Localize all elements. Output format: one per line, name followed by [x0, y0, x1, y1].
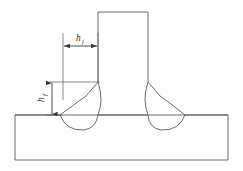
weld-left-top-edge	[60, 96, 86, 115]
weld-left-root-face	[98, 82, 101, 115]
base-plate-outline	[15, 115, 228, 160]
label-vertical-hf-subscript: f	[41, 93, 48, 96]
dimension-horizontal	[63, 33, 98, 100]
weld-cross-section-svg: h f h f	[0, 0, 243, 171]
weld-right-root-face	[145, 82, 148, 115]
weld-diagram: h f h f	[0, 0, 243, 171]
weld-right-upper-face	[148, 82, 160, 96]
label-vertical-hf-symbol: h	[36, 97, 46, 102]
weld-left-upper-face	[86, 82, 98, 96]
label-horizontal-hf-subscript: f	[82, 38, 85, 45]
weld-right-bead-profile	[148, 115, 185, 130]
label-horizontal-hf-symbol: h	[76, 33, 81, 43]
label-horizontal-hf: h f	[76, 33, 85, 45]
vertical-plate-outline	[98, 12, 148, 82]
dimension-vertical	[46, 82, 100, 115]
label-vertical-hf: h f	[36, 93, 48, 102]
base-plate	[15, 115, 228, 160]
vertical-plate	[98, 12, 148, 82]
weld-left-bead-profile	[60, 115, 98, 130]
weld-right-top-edge	[160, 96, 185, 115]
fillet-weld-left	[60, 82, 101, 130]
fillet-weld-right	[145, 82, 185, 130]
